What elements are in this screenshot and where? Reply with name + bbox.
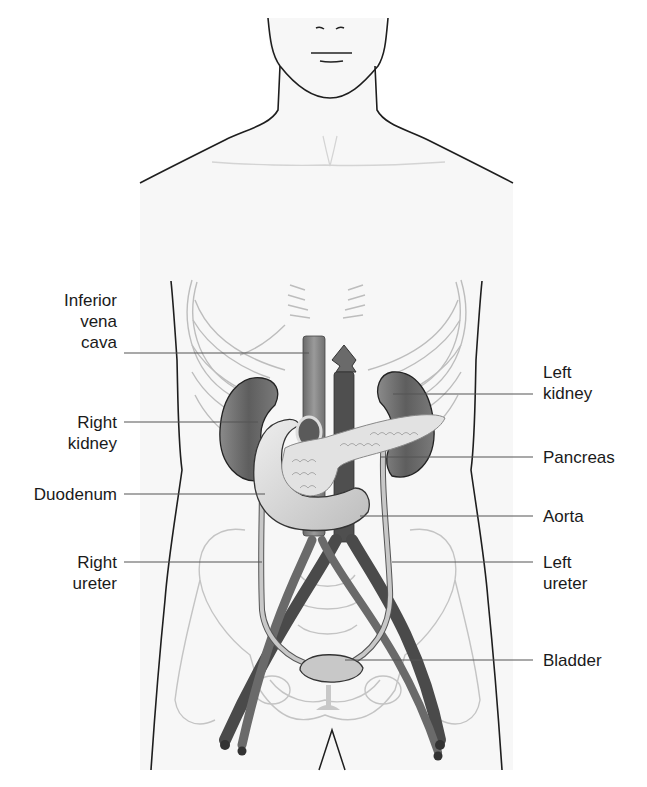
label-duodenum: Duodenum: [34, 484, 117, 505]
label-left-kidney: Left kidney: [543, 362, 592, 404]
label-bladder: Bladder: [543, 650, 602, 671]
label-line: Left: [543, 552, 587, 573]
label-line: Aorta: [543, 506, 584, 527]
label-line: kidney: [68, 433, 117, 454]
label-line: Right: [73, 552, 117, 573]
label-right-ureter: Right ureter: [73, 552, 117, 594]
label-line: Left: [543, 362, 592, 383]
label-line: Duodenum: [34, 484, 117, 505]
label-pancreas: Pancreas: [543, 447, 615, 468]
label-line: Pancreas: [543, 447, 615, 468]
label-right-kidney: Right kidney: [68, 412, 117, 454]
label-line: ureter: [543, 573, 587, 594]
label-line: ureter: [73, 573, 117, 594]
label-inferior-vena-cava: Inferior vena cava: [64, 290, 117, 353]
label-left-ureter: Left ureter: [543, 552, 587, 594]
label-line: Inferior: [64, 290, 117, 311]
label-line: Right: [68, 412, 117, 433]
label-line: Bladder: [543, 650, 602, 671]
label-line: vena: [64, 311, 117, 332]
label-line: cava: [64, 332, 117, 353]
label-line: kidney: [543, 383, 592, 404]
label-aorta: Aorta: [543, 506, 584, 527]
